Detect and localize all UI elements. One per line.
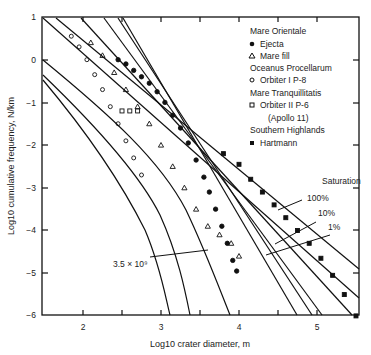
- legend: Mare Orientale Ejecta Mare fill Oceanus …: [249, 26, 332, 148]
- data-point: [182, 185, 187, 190]
- open-circle-icon: [250, 78, 254, 82]
- data-point: [135, 104, 140, 109]
- data-point: [207, 190, 211, 194]
- svg-text:5: 5: [315, 322, 320, 332]
- data-point: [124, 62, 128, 66]
- age-label: 3.5 × 10⁹: [113, 259, 148, 269]
- data-point: [272, 203, 276, 207]
- data-point: [132, 156, 136, 160]
- svg-text:Orbiter II P-6: Orbiter II P-6: [260, 100, 309, 110]
- data-point: [77, 45, 81, 49]
- y-tick-labels: 1 0 −1 −2 −3 −4 −5 −6: [26, 12, 36, 320]
- filled-circle-icon: [250, 42, 255, 47]
- data-point: [88, 40, 93, 45]
- data-point: [136, 109, 140, 113]
- data-point: [112, 70, 117, 75]
- data-point: [202, 175, 206, 179]
- saturation-100: 100%: [307, 193, 329, 203]
- y-axis-title: Log10 cumulative frequency, N/km: [6, 97, 16, 235]
- data-point: [85, 58, 89, 62]
- data-point: [158, 143, 163, 148]
- crater-frequency-chart: 1 0 −1 −2 −3 −4 −5 −6 2 3 4 5 Log10 crat…: [0, 0, 371, 355]
- svg-text:Ejecta: Ejecta: [260, 39, 284, 49]
- saturation-1: 1%: [328, 222, 341, 232]
- svg-text:−6: −6: [26, 310, 36, 320]
- svg-text:Orbiter I P-8: Orbiter I P-8: [260, 75, 307, 85]
- open-square-icon: [250, 103, 254, 107]
- x-axis-title: Log10 crater diameter, m: [150, 339, 250, 349]
- data-point: [331, 273, 335, 277]
- data-point: [231, 258, 235, 262]
- data-point: [213, 207, 217, 211]
- data-point: [155, 90, 159, 94]
- svg-text:−3: −3: [26, 183, 36, 193]
- data-point: [205, 224, 210, 229]
- svg-text:0: 0: [31, 55, 36, 65]
- data-point: [93, 73, 97, 77]
- data-point: [163, 100, 167, 104]
- legend-heading-highlands: Southern Highlands: [250, 125, 325, 135]
- svg-text:−2: −2: [26, 140, 36, 150]
- data-point: [342, 293, 346, 297]
- data-point: [139, 75, 143, 79]
- data-point: [147, 81, 151, 85]
- data-point: [307, 241, 311, 245]
- svg-text:3: 3: [159, 322, 164, 332]
- svg-text:1: 1: [31, 12, 36, 22]
- x-tick-labels: 2 3 4 5: [81, 322, 320, 332]
- svg-text:−5: −5: [26, 268, 36, 278]
- legend-heading-tranquillitatis: Mare Tranquillitatis: [250, 88, 321, 98]
- svg-text:4: 4: [237, 322, 242, 332]
- data-point: [124, 139, 128, 143]
- data-point: [128, 109, 132, 113]
- saturation-10: 10%: [318, 208, 335, 218]
- data-point: [171, 113, 175, 117]
- data-point: [108, 105, 112, 109]
- svg-text:Mare fill: Mare fill: [260, 51, 290, 61]
- data-point: [296, 229, 300, 233]
- data-point: [194, 207, 199, 212]
- svg-text:−1: −1: [26, 98, 36, 108]
- svg-text:(Apollo 11): (Apollo 11): [268, 113, 309, 123]
- data-point: [249, 177, 253, 181]
- data-point: [140, 173, 144, 177]
- data-point: [319, 256, 323, 260]
- data-point: [186, 141, 190, 145]
- open-triangle-icon: [249, 53, 255, 58]
- data-point: [237, 162, 241, 166]
- data-point: [220, 224, 224, 228]
- data-point: [221, 152, 225, 156]
- data-point: [116, 58, 120, 62]
- data-point: [234, 269, 238, 273]
- data-point: [178, 126, 182, 130]
- data-point: [217, 232, 222, 237]
- data-point: [236, 254, 241, 259]
- data-point: [194, 158, 198, 162]
- data-point: [147, 121, 152, 126]
- svg-text:Hartmann: Hartmann: [260, 138, 298, 148]
- data-point: [120, 109, 124, 113]
- data-point: [260, 190, 264, 194]
- data-point: [69, 34, 73, 38]
- legend-heading-orientale: Mare Orientale: [250, 26, 306, 36]
- data-point: [284, 216, 288, 220]
- data-point: [101, 88, 105, 92]
- data-point: [170, 164, 175, 169]
- saturation-title: Saturation: [322, 176, 361, 186]
- data-point: [354, 314, 358, 318]
- data-point: [132, 68, 136, 72]
- svg-text:−4: −4: [26, 225, 36, 235]
- filled-square-icon: [250, 141, 254, 145]
- legend-heading-procellarum: Oceanus Procellarum: [250, 63, 332, 73]
- svg-text:2: 2: [81, 322, 86, 332]
